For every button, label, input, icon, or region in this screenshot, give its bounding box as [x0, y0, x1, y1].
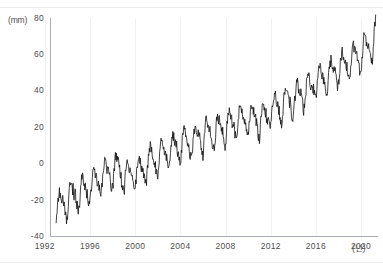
axis-lines-group: [51, 18, 379, 237]
y-tick-label: 20: [18, 122, 44, 132]
figure-caption: [12, 266, 22, 275]
sea-level-figure: (mm) (년) 806040200-20-40 199219962000200…: [0, 0, 383, 275]
x-tick-label: 2004: [160, 241, 200, 251]
y-tick-label: 0: [18, 158, 44, 168]
line-chart-svg: [0, 0, 383, 258]
y-tick-label: 80: [18, 13, 44, 23]
x-tick-label: 2016: [296, 241, 336, 251]
y-tick-label: -20: [18, 195, 44, 205]
sea-level-series-line: [56, 15, 376, 224]
chart-plot-area: (mm) (년) 806040200-20-40 199219962000200…: [0, 0, 383, 258]
x-tick-label: 2020: [341, 241, 381, 251]
x-tick-label: 1992: [25, 241, 65, 251]
x-tick-label: 2012: [251, 241, 291, 251]
bottom-divider: [0, 262, 383, 263]
x-tick-label: 2000: [115, 241, 155, 251]
y-tick-label: -40: [18, 231, 44, 241]
y-tick-label: 40: [18, 85, 44, 95]
x-tick-label: 1996: [70, 241, 110, 251]
x-tick-label: 2008: [206, 241, 246, 251]
y-tick-label: 60: [18, 49, 44, 59]
gridlines-group: [46, 18, 362, 237]
